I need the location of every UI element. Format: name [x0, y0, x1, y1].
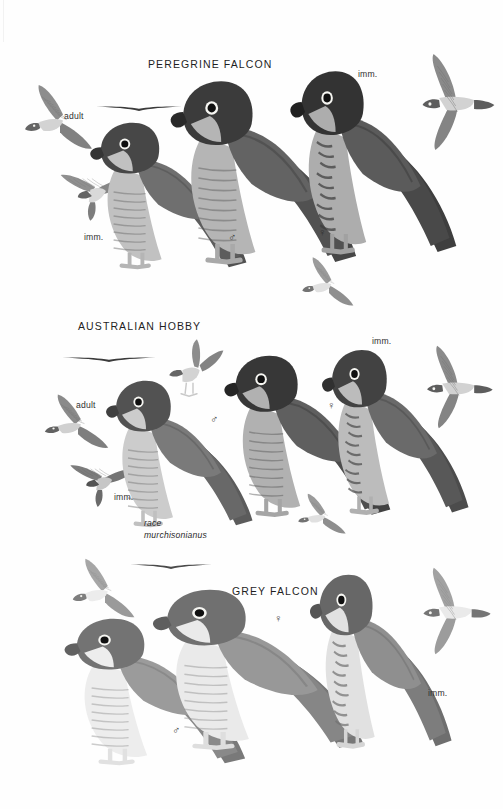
sex-symbol-hobby-female: ♀: [327, 399, 335, 411]
page-edge-line: [3, 0, 4, 42]
label-hobby-race-line2: murchisonianus: [144, 530, 207, 541]
figure-hobby-imm-flight-small: [296, 492, 350, 538]
label-peregrine-imm-right: imm.: [358, 69, 377, 79]
label-peregrine-imm-left: imm.: [84, 232, 103, 242]
species-title-grey: GREY FALCON: [232, 585, 319, 597]
figure-grey-immature-perched: [308, 562, 453, 752]
label-hobby-adult: adult: [76, 400, 96, 410]
figure-hobby-adult-gliding-silhouette: [62, 355, 156, 365]
species-title-hobby: AUSTRALIAN HOBBY: [78, 320, 201, 332]
label-grey-imm-right: imm.: [428, 688, 447, 698]
figure-peregrine-adult-diving-upper: [22, 82, 98, 156]
figure-hobby-imm-flight-lower: [66, 452, 138, 508]
figure-hobby-immature-perched: [320, 338, 470, 518]
figure-hobby-adult-flight-upper: [42, 392, 114, 454]
sex-symbol-grey-female: ♀: [274, 612, 282, 624]
species-section-hobby: AUSTRALIAN HOBBYadultimm.imm.racemurchis…: [0, 0, 503, 809]
label-hobby-imm-right: imm.: [372, 336, 391, 346]
figure-hobby-adult-female-perched: [222, 344, 392, 520]
sex-symbol-hobby-male: ♂: [210, 413, 218, 425]
figure-hobby-adult-male-perched: [104, 370, 254, 530]
figure-grey-adult-flight-overhead: [408, 566, 494, 656]
label-hobby-race-line1: race: [144, 518, 162, 529]
sex-symbol-peregrine-male: ♂: [228, 231, 236, 243]
figure-peregrine-immature-perched: [288, 58, 458, 258]
figure-grey-adult-female-perched: [150, 578, 365, 753]
species-section-peregrine: PEREGRINE FALCONadultimm.imm.♂♀: [0, 0, 503, 809]
figure-hobby-adult-flight-overhead: [412, 344, 496, 430]
figure-peregrine-adult-gliding-silhouette: [96, 104, 182, 114]
figure-grey-adult-flight-upper: [70, 556, 140, 624]
sex-symbol-grey-male: ♂: [172, 724, 180, 736]
illustration-plate: PEREGRINE FALCONadultimm.imm.♂♀AUSTRALIA…: [0, 0, 503, 809]
label-hobby-imm-left: imm.: [114, 492, 133, 502]
sex-symbol-peregrine-female: ♀: [318, 226, 326, 238]
figure-grey-adult-gliding-silhouette: [130, 562, 212, 572]
figure-peregrine-adult-female-perched: [168, 68, 358, 268]
species-title-peregrine: PEREGRINE FALCON: [148, 58, 272, 70]
species-section-grey: GREY FALCONimm.♂♀: [0, 0, 503, 809]
label-peregrine-adult: adult: [64, 111, 84, 121]
figure-peregrine-adult-flight-overhead: [406, 52, 498, 152]
figure-peregrine-imm-flight-lower: [56, 160, 134, 222]
figure-grey-adult-male-perched: [62, 608, 247, 768]
figure-hobby-hobby-landing-flight: [160, 338, 226, 400]
figure-peregrine-adult-male-perched: [88, 112, 248, 272]
figure-peregrine-imm-flight-small: [300, 255, 358, 311]
